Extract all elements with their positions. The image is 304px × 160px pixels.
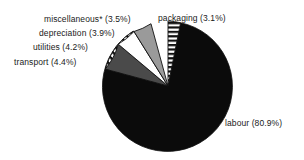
pie-slices [102, 21, 232, 151]
pie-label-transport: transport (4.4%) [14, 57, 77, 67]
pie-chart-svg [0, 0, 304, 160]
pie-label-miscellaneous: miscellaneous* (3.5%) [44, 14, 131, 24]
pie-label-labour: labour (80.9%) [225, 118, 282, 128]
pie-label-packaging: packaging (3.1%) [158, 13, 226, 23]
pie-chart-canvas [0, 0, 304, 160]
pie-label-depreciation: depreciation (3.9%) [39, 28, 115, 38]
pie-label-utilities: utilities (4.2%) [33, 42, 88, 52]
pie-chart-figure: miscellaneous* (3.5%) depreciation (3.9%… [0, 0, 304, 160]
